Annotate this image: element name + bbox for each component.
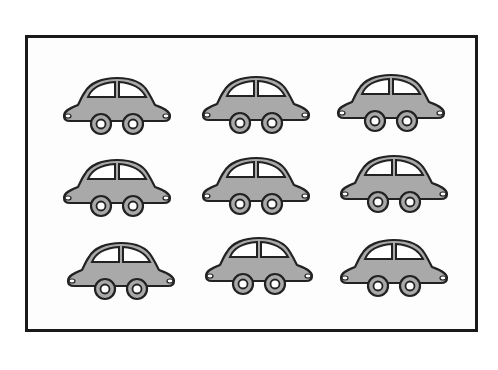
car-icon bbox=[337, 237, 451, 299]
car-icon bbox=[60, 75, 174, 137]
car-icon bbox=[64, 240, 178, 302]
car-icon bbox=[334, 72, 448, 134]
car-icon bbox=[199, 74, 313, 136]
car-icon bbox=[199, 155, 313, 217]
car-icon bbox=[60, 157, 174, 219]
car-icon bbox=[337, 153, 451, 215]
car-icon bbox=[202, 235, 316, 297]
